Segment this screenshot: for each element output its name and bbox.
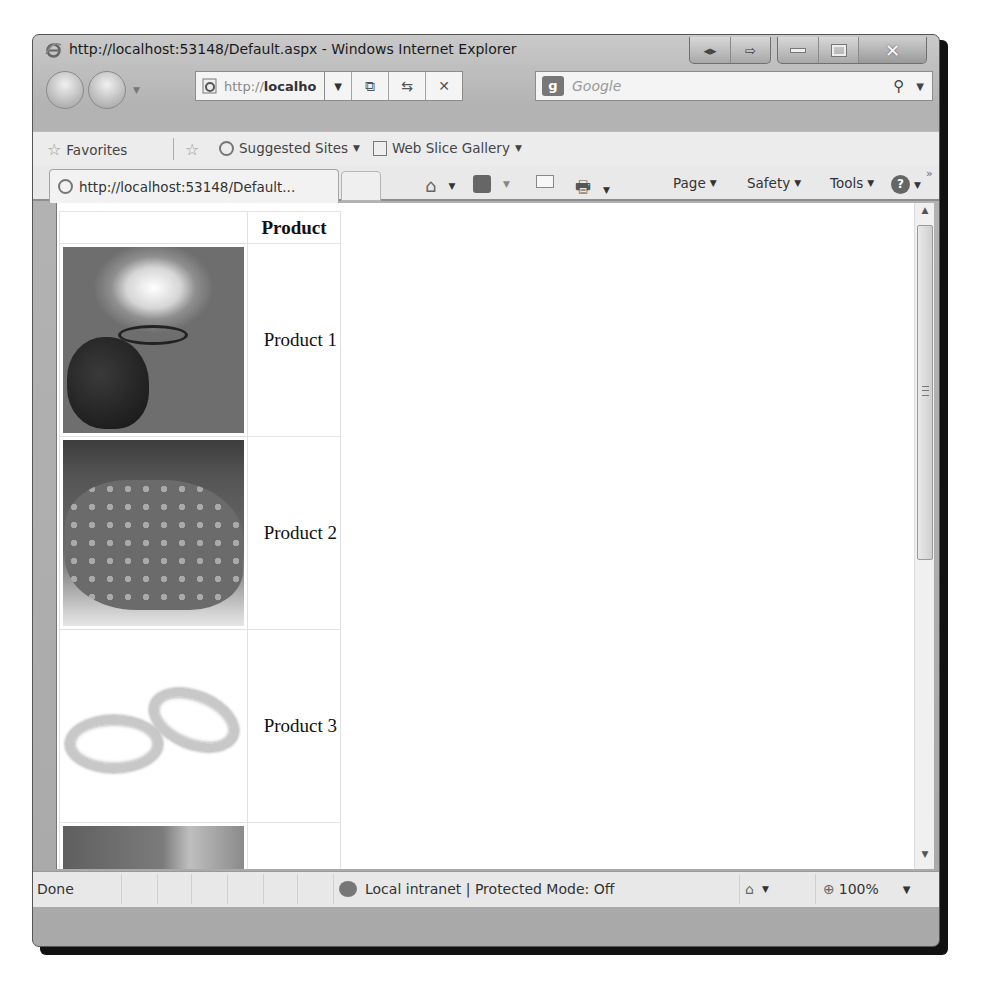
chevron-down-icon[interactable]: ▼	[448, 181, 455, 191]
ie-icon	[58, 179, 73, 194]
page-icon	[202, 78, 218, 94]
title-bar: http://localhost:53148/Default.aspx - Wi…	[33, 35, 939, 65]
search-options-dropdown[interactable]: ▼	[916, 81, 924, 92]
browser-window: http://localhost:53148/Default.aspx - Wi…	[32, 34, 940, 947]
print-icon: 🖶	[575, 175, 591, 204]
image-cell	[60, 823, 248, 870]
close-button[interactable]: ✕	[858, 37, 926, 63]
scroll-down-arrow[interactable]: ▼	[915, 849, 935, 867]
image-cell	[60, 244, 248, 437]
chevron-down-icon: ▼	[914, 180, 921, 190]
product-image-rings	[63, 633, 244, 819]
stop-icon: ✕	[438, 78, 450, 94]
help-button[interactable]: ? ▼	[891, 175, 921, 194]
add-favorite-icon: ☆	[185, 140, 199, 159]
protected-mode-button[interactable]: ⌂ ▼	[745, 881, 769, 897]
stop-button[interactable]: ✕	[425, 72, 462, 100]
forward-button[interactable]	[88, 71, 126, 109]
security-zone[interactable]: Local intranet | Protected Mode: Off	[339, 881, 614, 897]
caption-buttons: ◂▸ ⇨ ✕	[689, 37, 927, 64]
toolbar-overflow-button[interactable]: »	[926, 167, 933, 180]
chevron-down-icon: ▼	[762, 884, 769, 894]
product-name: Product 3	[248, 630, 341, 823]
vertical-scrollbar[interactable]: ▲ ▼	[914, 203, 934, 869]
table-row: Product 2	[60, 437, 341, 630]
product-image-stone	[63, 440, 244, 626]
home-icon: ⌂	[425, 175, 436, 196]
exit-icon: ⇨	[745, 43, 756, 58]
chevron-down-icon: ▼	[794, 178, 801, 188]
add-to-favorites-bar-button[interactable]: ☆	[185, 140, 204, 159]
image-cell	[60, 437, 248, 630]
address-url[interactable]: http://localhost:531	[224, 79, 316, 94]
product-name: Product 2	[248, 437, 341, 630]
maximize-button[interactable]	[818, 37, 858, 63]
print-button[interactable]: 🖶 ▼	[575, 175, 610, 204]
command-bar: http://localhost:53148/Default... ⌂ ▼ ▼ …	[33, 165, 939, 201]
compatibility-view-toggle[interactable]: ⧉	[351, 72, 388, 100]
tab-default[interactable]: http://localhost:53148/Default...	[49, 169, 339, 203]
search-box[interactable]: g Google ⚲ ▼	[535, 71, 933, 101]
address-dropdown[interactable]: ▼	[325, 72, 351, 100]
compatibility-view-icon: ⧉	[365, 78, 375, 95]
read-mail-button[interactable]	[536, 175, 554, 188]
address-tools: ▼ ⧉ ⇆ ✕	[325, 71, 463, 101]
chevron-down-icon: ▼	[515, 143, 522, 153]
status-text: Done	[37, 881, 74, 897]
divider	[173, 138, 174, 160]
product-name	[248, 823, 341, 870]
product-image-lamp	[63, 247, 244, 433]
address-bar[interactable]: http://localhost:531	[195, 71, 325, 101]
back-button[interactable]	[46, 71, 84, 109]
chevron-down-icon: ▼	[353, 143, 360, 153]
zoom-icon: ⊕	[823, 881, 835, 897]
feeds-button[interactable]: ▼	[473, 175, 510, 193]
feeds-icon	[473, 175, 491, 193]
product-image-partial	[63, 826, 244, 869]
product-name: Product 1	[248, 244, 341, 437]
compatibility-view-button[interactable]: ◂▸	[690, 37, 730, 63]
chevron-down-icon[interactable]: ▼	[903, 884, 911, 895]
scroll-thumb[interactable]	[917, 225, 933, 560]
grip-icon	[922, 386, 929, 396]
search-placeholder[interactable]: Google	[572, 78, 893, 94]
minimize-button[interactable]	[778, 37, 818, 63]
safety-menu[interactable]: Safety ▼	[747, 175, 801, 191]
favorites-bar: ☆ Favorites ☆ Suggested Sites ▼ Web Slic…	[33, 131, 939, 165]
help-icon: ?	[891, 175, 910, 194]
table-row	[60, 823, 341, 870]
favorites-button[interactable]: ☆ Favorites	[47, 140, 127, 159]
table-header-row: Product	[60, 212, 341, 244]
close-icon: ✕	[885, 40, 900, 61]
page-menu[interactable]: Page ▼	[673, 175, 717, 191]
tools-menu[interactable]: Tools ▼	[830, 175, 874, 191]
refresh-icon: ⇆	[401, 78, 413, 94]
recent-pages-dropdown[interactable]: ▼	[133, 85, 140, 95]
scroll-up-arrow[interactable]: ▲	[915, 205, 935, 223]
compatibility-icon: ◂▸	[703, 43, 716, 58]
chevron-down-icon[interactable]: ▼	[603, 185, 610, 195]
web-slice-icon	[373, 141, 387, 156]
table-row: Product 1	[60, 244, 341, 437]
new-tab-button[interactable]	[341, 171, 381, 201]
local-intranet-icon	[339, 881, 357, 897]
refresh-button[interactable]: ⇆	[388, 72, 425, 100]
product-column-header: Product	[248, 212, 341, 244]
table-row: Product 3	[60, 630, 341, 823]
ie-logo-icon	[45, 42, 62, 59]
web-slice-gallery-item[interactable]: Web Slice Gallery ▼	[373, 140, 522, 156]
chevron-down-icon: ▼	[867, 178, 874, 188]
restore-tab-button[interactable]: ⇨	[730, 37, 770, 63]
status-bar: Done Local intranet | Protected Mode: Of…	[33, 871, 939, 907]
suggested-sites-item[interactable]: Suggested Sites ▼	[219, 140, 360, 156]
image-column-header	[60, 212, 248, 244]
star-icon: ☆	[47, 140, 61, 159]
product-table: Product Product 1 Product 2 Product 3	[59, 211, 341, 869]
lock-icon: ⌂	[745, 881, 754, 897]
navigation-bar: ▼ http://localhost:531 ▼ ⧉ ⇆ ✕ g Google …	[33, 67, 939, 105]
search-icon[interactable]: ⚲	[893, 77, 904, 95]
chevron-down-icon[interactable]: ▼	[503, 179, 510, 189]
zoom-level-button[interactable]: ⊕ 100% ▼	[823, 881, 910, 897]
window-title: http://localhost:53148/Default.aspx - Wi…	[69, 41, 517, 57]
home-button[interactable]: ⌂ ▼	[425, 175, 455, 196]
